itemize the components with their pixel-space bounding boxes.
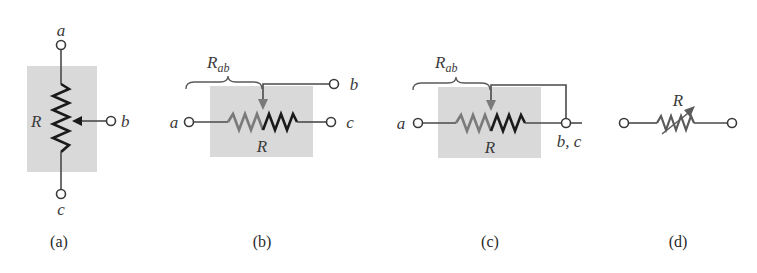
label-r: R [256, 137, 268, 156]
label-r: R [672, 91, 684, 110]
terminal-a [185, 118, 194, 127]
terminal-c [57, 190, 66, 199]
terminal-left [620, 119, 629, 128]
label-c: c [57, 200, 65, 219]
caption-a: (a) [50, 233, 68, 251]
terminal-a [57, 41, 66, 50]
label-a: a [57, 21, 66, 40]
caption-b: (b) [253, 233, 272, 251]
label-a: a [397, 114, 406, 133]
label-rab: Rab [434, 53, 457, 75]
label-r: R [30, 112, 42, 131]
label-rab: Rab [206, 53, 229, 75]
label-b: b [350, 75, 359, 94]
label-b: b [121, 112, 130, 131]
caption-c: (c) [481, 233, 499, 251]
panel-c: Rab a b, c R (c) [397, 53, 582, 251]
caption-d: (d) [669, 233, 688, 251]
label-a: a [170, 113, 179, 132]
label-r: R [484, 138, 496, 157]
terminal-b [107, 117, 116, 126]
terminal-bc [562, 119, 571, 128]
terminal-right [728, 119, 737, 128]
terminal-b [330, 80, 339, 89]
label-c: c [346, 113, 354, 132]
label-bc: b, c [557, 132, 582, 151]
panel-d: R (d) [620, 91, 737, 251]
potentiometer-figure: a c b R (a) Rab a c b R (b) [0, 0, 757, 273]
panel-b: Rab a c b R (b) [170, 53, 359, 251]
terminal-c [327, 118, 336, 127]
terminal-a [414, 119, 423, 128]
panel-a: a c b R (a) [27, 21, 130, 251]
